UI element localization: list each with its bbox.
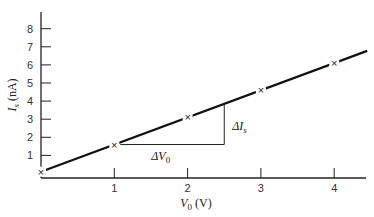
y-tick-label: 5 [27, 77, 33, 89]
y-ticks: 12345678 [27, 23, 51, 162]
x-tick-label: 3 [258, 182, 264, 194]
x-ticks: 1234 [111, 168, 337, 194]
y-tick-label: 3 [27, 113, 33, 125]
delta-v0-label: ΔV0 [150, 149, 170, 165]
y-tick-label: 1 [27, 149, 33, 161]
x-marker-icon: × [38, 166, 44, 178]
x-tick-label: 2 [185, 182, 191, 194]
plot-area: ××××× [36, 51, 367, 178]
x-marker-icon: × [111, 139, 117, 151]
data-markers: ××××× [36, 57, 339, 178]
y-tick-label: 7 [27, 41, 33, 53]
x-marker-icon: × [258, 84, 264, 96]
chart: 12345678 1234 ××××× ΔV0 ΔIs V0 (V) Is (n… [0, 0, 374, 217]
x-marker-icon: × [184, 111, 190, 123]
y-tick-label: 8 [27, 23, 33, 35]
y-tick-label: 4 [27, 95, 33, 107]
delta-is-label: ΔIs [231, 119, 247, 135]
y-tick-label: 6 [27, 59, 33, 71]
x-axis-title: V0 (V) [180, 196, 212, 212]
x-marker-icon: × [331, 57, 337, 69]
fit-line [41, 51, 367, 172]
x-tick-label: 4 [331, 182, 337, 194]
y-axis-title: Is (nA) [5, 78, 21, 112]
y-tick-label: 2 [27, 131, 33, 143]
x-tick-label: 1 [111, 182, 117, 194]
